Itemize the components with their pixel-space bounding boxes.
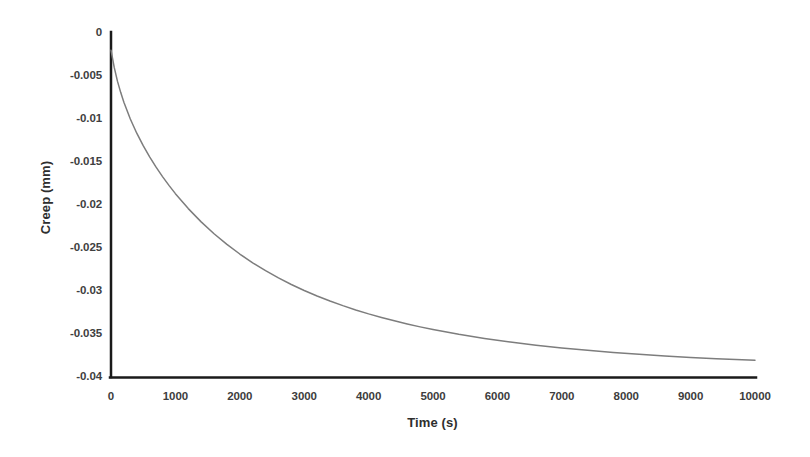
x-tick-label: 2000 — [227, 390, 252, 402]
x-tick-label: 9000 — [678, 390, 703, 402]
x-tick-label: 7000 — [549, 390, 574, 402]
y-tick-label: -0.04 — [42, 371, 102, 383]
y-tick-label: 0 — [42, 27, 102, 39]
y-tick-label: -0.035 — [42, 328, 102, 340]
x-tick-label: 10000 — [739, 390, 770, 402]
y-tick-label: -0.005 — [42, 70, 102, 82]
x-tick-label: 6000 — [485, 390, 510, 402]
x-tick-label: 0 — [108, 390, 114, 402]
x-tick-10: 10000 — [715, 386, 795, 404]
x-axis-title: Time (s) — [110, 415, 755, 430]
y-tick-label: -0.01 — [42, 113, 102, 125]
y-tick-label: -0.03 — [42, 285, 102, 297]
x-tick-label: 8000 — [614, 390, 639, 402]
x-tick-label: 1000 — [163, 390, 188, 402]
x-tick-label: 5000 — [420, 390, 445, 402]
x-tick-label: 3000 — [292, 390, 317, 402]
creep-curve — [111, 50, 755, 360]
creep-vs-time-chart: 0-0.005-0.01-0.015-0.02-0.025-0.03-0.035… — [0, 0, 810, 457]
y-axis-title: Creep (mm) — [38, 138, 53, 258]
x-tick-label: 4000 — [356, 390, 381, 402]
